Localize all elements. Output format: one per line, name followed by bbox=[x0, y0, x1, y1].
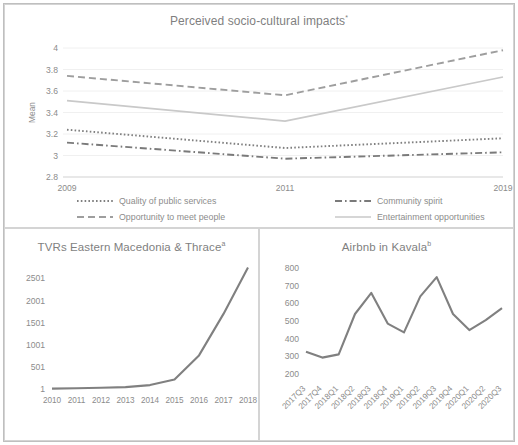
x-tick-label: 2012 bbox=[92, 396, 111, 405]
x-tick-label: 2014 bbox=[141, 396, 160, 405]
y-tick-label: 2.8 bbox=[46, 172, 58, 182]
legend-label-3: Entertainment opportunities bbox=[377, 212, 485, 222]
y-tick-label: 2001 bbox=[26, 296, 45, 306]
y-axis-title: Mean bbox=[27, 102, 37, 123]
chart-title-superscript: b bbox=[427, 240, 431, 247]
y-tick-label: 1001 bbox=[26, 340, 45, 350]
y-tick-label: 500 bbox=[285, 316, 300, 326]
panel-tvrs: TVRs Eastern Macedonia & Thracea 1501100… bbox=[4, 228, 259, 441]
x-tick-label: 2015 bbox=[165, 396, 184, 405]
y-tick-label: 600 bbox=[285, 298, 300, 308]
legend-label-2: Opportunity to meet people bbox=[119, 212, 225, 222]
legend-label-1: Community spirit bbox=[377, 196, 443, 206]
chart-title-text: Perceived socio-cultural impacts bbox=[170, 14, 345, 28]
x-tick-label: 2018 bbox=[239, 396, 258, 405]
x-tick-label: 2017 bbox=[214, 396, 233, 405]
y-tick-label: 1501 bbox=[26, 318, 45, 328]
y-tick-label: 3.6 bbox=[46, 86, 58, 96]
y-tick-label: 3.8 bbox=[46, 65, 58, 75]
y-tick-label: 3 bbox=[53, 151, 58, 161]
x-tick-label: 2013 bbox=[116, 396, 135, 405]
y-tick-label: 2501 bbox=[26, 273, 45, 283]
y-tick-label: 3.4 bbox=[46, 108, 58, 118]
chart-title-superscript: a bbox=[221, 240, 225, 247]
x-tick-label: 2011 bbox=[276, 183, 295, 193]
x-tick-label: 2009 bbox=[57, 183, 76, 193]
series-line-airbnb bbox=[306, 277, 502, 358]
x-tick-label: 2016 bbox=[190, 396, 209, 405]
chart-tvrs: 1501100115012001250120102011201220132014… bbox=[5, 229, 258, 440]
series-line-2 bbox=[67, 50, 503, 95]
panel-airbnb: Airbnb in Kavalab 2003004005006007008002… bbox=[259, 228, 514, 441]
chart-title-text: TVRs Eastern Macedonia & Thrace bbox=[38, 241, 222, 253]
y-tick-label: 800 bbox=[285, 263, 300, 273]
y-tick-label: 3.2 bbox=[46, 129, 58, 139]
panel-perceived-impacts: Perceived socio-cultural impacts* 2.833.… bbox=[4, 4, 514, 228]
series-line-1 bbox=[67, 143, 503, 159]
x-tick-label: 2019 bbox=[493, 183, 512, 193]
figure-container: Perceived socio-cultural impacts* 2.833.… bbox=[0, 0, 518, 445]
y-tick-label: 700 bbox=[285, 281, 300, 291]
chart-title-perceived-impacts: Perceived socio-cultural impacts* bbox=[5, 14, 513, 28]
chart-title-text: Airbnb in Kavala bbox=[342, 241, 427, 253]
y-tick-label: 4 bbox=[53, 43, 58, 53]
chart-airbnb: 2003004005006007008002017Q32017Q42018Q12… bbox=[260, 229, 513, 440]
x-tick-label: 2011 bbox=[68, 396, 86, 405]
x-tick-label: 2010 bbox=[43, 396, 62, 405]
chart-title-tvrs: TVRs Eastern Macedonia & Thracea bbox=[5, 240, 258, 253]
y-tick-label: 501 bbox=[31, 362, 46, 372]
y-tick-label: 1 bbox=[40, 384, 45, 394]
chart-title-superscript: * bbox=[345, 14, 348, 21]
y-tick-label: 400 bbox=[285, 334, 300, 344]
legend-label-0: Quality of public services bbox=[119, 196, 217, 206]
series-line-0 bbox=[67, 130, 503, 148]
chart-title-airbnb: Airbnb in Kavalab bbox=[260, 240, 513, 253]
series-line-tvrs bbox=[52, 267, 248, 388]
y-tick-label: 200 bbox=[285, 369, 300, 379]
y-tick-label: 300 bbox=[285, 351, 300, 361]
chart-perceived-impacts: 2.833.23.43.63.84Mean200920112019Quality… bbox=[5, 5, 513, 227]
series-line-3 bbox=[67, 77, 503, 121]
